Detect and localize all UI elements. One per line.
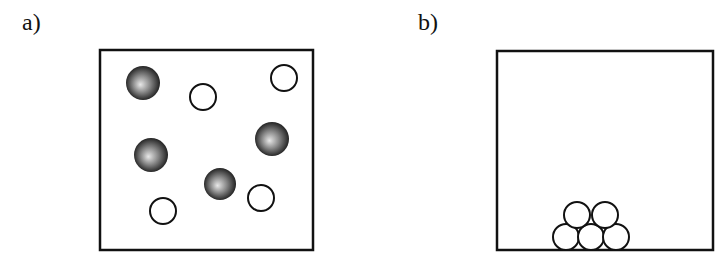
- open-circle-particle: [150, 198, 176, 224]
- open-circle-particle: [271, 65, 297, 91]
- open-circle-particle: [564, 202, 590, 228]
- dark-sphere-particle: [134, 138, 168, 172]
- open-circle-particle: [248, 185, 274, 211]
- open-circle-particle: [592, 202, 618, 228]
- diagram-canvas: [0, 0, 717, 256]
- open-circle-particle: [190, 84, 216, 110]
- dark-sphere-particle: [204, 168, 236, 200]
- panel-b-container: [497, 51, 713, 250]
- panel-a-container: [100, 50, 313, 250]
- dark-sphere-particle: [255, 122, 289, 156]
- dark-sphere-particle: [126, 66, 160, 100]
